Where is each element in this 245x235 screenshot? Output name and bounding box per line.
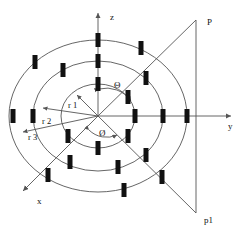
observation-label-P: P — [207, 17, 212, 27]
axis-label-x: x — [37, 196, 42, 206]
array-element — [133, 109, 138, 123]
ray-to-P — [98, 20, 196, 116]
array-element — [126, 129, 131, 143]
radius-label-r1: r 1 — [68, 100, 77, 110]
array-element — [31, 109, 36, 123]
r1-arrow — [77, 95, 98, 116]
axis-label-z: z — [110, 12, 114, 22]
array-element — [68, 155, 73, 169]
array-element — [144, 71, 149, 85]
array-element — [160, 170, 165, 184]
array-element — [61, 63, 66, 77]
array-element — [185, 109, 190, 123]
angle-label-phi: Ø — [99, 128, 106, 138]
array-element — [66, 129, 71, 143]
array-element — [96, 33, 101, 47]
array-element — [126, 90, 131, 104]
array-element — [122, 183, 127, 197]
observation-point-group — [98, 20, 196, 213]
ray-to-p1 — [98, 116, 196, 213]
array-element — [96, 54, 101, 68]
array-element — [116, 160, 121, 174]
array-element — [161, 109, 166, 123]
axis-label-y: y — [228, 121, 233, 131]
antenna-array-diagram: z y x r 1 r 2 r 3 Θ Ø P p1 — [0, 0, 245, 235]
array-element — [96, 141, 101, 155]
diagram-canvas: z y x r 1 r 2 r 3 Θ Ø P p1 — [0, 0, 245, 235]
radius-label-r2: r 2 — [42, 116, 51, 126]
angle-label-theta: Θ — [114, 80, 121, 90]
observation-label-p1: p1 — [204, 215, 213, 225]
array-element-group — [11, 33, 190, 197]
array-element — [144, 148, 149, 162]
array-element — [33, 55, 38, 69]
radius-label-r3: r 3 — [28, 132, 37, 142]
array-element — [46, 168, 51, 182]
array-element — [11, 109, 16, 123]
array-element — [96, 77, 101, 91]
array-element — [139, 41, 144, 55]
